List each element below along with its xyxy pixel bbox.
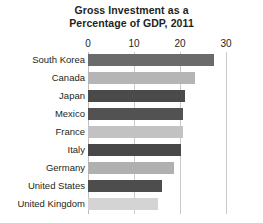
category-label-united-states: United States (0, 180, 85, 192)
chart-title-line-2: Percentage of GDP, 2011 (0, 17, 263, 30)
category-label-canada: Canada (0, 72, 85, 84)
bar-germany (88, 162, 174, 174)
plot-area (88, 52, 226, 214)
category-label-germany: Germany (0, 162, 85, 174)
category-label-united-kingdom: United Kingdom (0, 198, 85, 210)
gridline-30 (226, 52, 227, 214)
category-label-south-korea: South Korea (0, 54, 85, 66)
bar-italy (88, 144, 181, 156)
chart-title-line-1: Gross Investment as a (0, 4, 263, 17)
category-label-italy: Italy (0, 144, 85, 156)
bar-united-states (88, 180, 162, 192)
bar-japan (88, 90, 185, 102)
chart-figure: Gross Investment as a Percentage of GDP,… (0, 0, 263, 223)
category-label-france: France (0, 126, 85, 138)
bar-france (88, 126, 183, 138)
bar-mexico (88, 108, 183, 120)
bar-south-korea (88, 54, 214, 66)
x-tick-label-20: 20 (165, 38, 195, 50)
bar-canada (88, 72, 195, 84)
x-tick-label-30: 30 (211, 38, 241, 50)
chart-title: Gross Investment as a Percentage of GDP,… (0, 4, 263, 30)
x-tick-label-0: 0 (73, 38, 103, 50)
bar-united-kingdom (88, 198, 158, 210)
category-label-japan: Japan (0, 90, 85, 102)
category-label-mexico: Mexico (0, 108, 85, 120)
x-tick-label-10: 10 (119, 38, 149, 50)
x-axis-tick-labels: 0102030 (0, 38, 263, 52)
